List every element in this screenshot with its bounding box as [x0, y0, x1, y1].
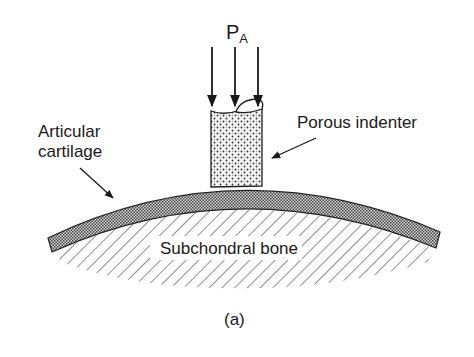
porous-indenter: [211, 108, 262, 187]
load-label: PA: [226, 21, 248, 46]
indenter-leader-arrow: [272, 138, 316, 158]
label-articular-line2: cartilage: [38, 142, 102, 161]
cartilage-leader-arrow: [80, 168, 113, 198]
label-porous-indenter: Porous indenter: [297, 113, 417, 132]
label-subchondral-bone: Subchondral bone: [160, 239, 298, 258]
diagram-canvas: [0, 0, 474, 357]
figure-caption: (a): [224, 310, 245, 329]
label-articular-line1: Articular: [38, 122, 100, 141]
